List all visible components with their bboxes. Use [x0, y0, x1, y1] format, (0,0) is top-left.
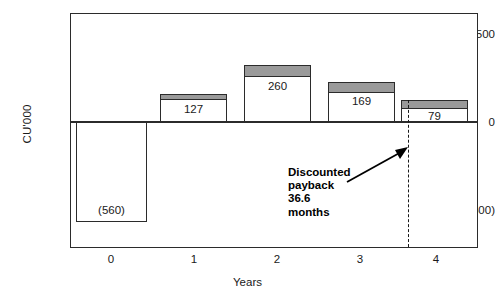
- bar-cap-year-4: [401, 100, 468, 109]
- x-tick-label-4: 4: [416, 253, 456, 265]
- discounted-payback-bar-chart: CU'000 500 0 (500) (560) 127 260 169 79 …: [0, 0, 495, 297]
- x-tick-label-0: 0: [91, 253, 131, 265]
- discounted-payback-annotation: Discounted payback 36.6 months: [288, 166, 351, 219]
- annotation-line-1: Discounted: [288, 166, 351, 179]
- discounted-payback-dashed-line: [408, 100, 409, 247]
- bar-cap-year-3: [328, 82, 395, 93]
- bar-cap-year-1: [160, 94, 227, 100]
- annotation-line-4: months: [288, 206, 351, 219]
- bar-value-year-1: 127: [160, 103, 227, 115]
- bar-value-year-0: (560): [76, 204, 147, 216]
- x-tick-label-2: 2: [257, 253, 297, 265]
- bar-value-year-3: 169: [328, 95, 395, 107]
- annotation-line-3: 36.6: [288, 192, 351, 205]
- x-tick-label-3: 3: [340, 253, 380, 265]
- x-tick-label-1: 1: [174, 253, 214, 265]
- x-axis-title: Years: [0, 276, 495, 288]
- bar-value-year-2: 260: [244, 80, 311, 92]
- y-axis-title: CU'000: [21, 79, 33, 169]
- bar-cap-year-2: [244, 65, 311, 77]
- bar-value-year-4: 79: [401, 110, 468, 122]
- annotation-line-2: payback: [288, 179, 351, 192]
